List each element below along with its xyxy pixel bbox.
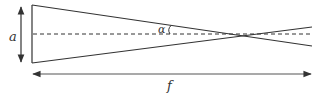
aperture-label: a xyxy=(9,29,17,44)
lower-ray xyxy=(32,27,312,63)
angle-arc xyxy=(169,26,171,35)
angle-label: α xyxy=(158,23,166,36)
optics-diagram: a α f xyxy=(0,0,323,96)
focal-length-label: f xyxy=(166,78,174,93)
upper-ray xyxy=(32,5,312,46)
